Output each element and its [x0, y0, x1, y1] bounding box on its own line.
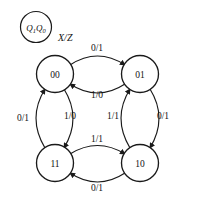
- edge-label-01-to-10: 0/1: [157, 111, 169, 121]
- state-machine-diagram: Q1Q0 X/Z 00 01 11 10: [0, 0, 208, 205]
- legend-group: Q1Q0 X/Z: [21, 12, 73, 43]
- edge-label-10-to-11: 0/1: [91, 183, 103, 193]
- state-node-10[interactable]: 10: [122, 145, 159, 182]
- edge-10-to-01[interactable]: [121, 89, 130, 148]
- edge-11-to-10[interactable]: [70, 146, 125, 155]
- edge-label-00-to-01: 0/1: [91, 43, 103, 53]
- edge-10-to-11[interactable]: [70, 173, 125, 182]
- state-label-01: 01: [135, 70, 145, 80]
- edge-11-to-00[interactable]: [36, 89, 45, 148]
- edge-label-11-to-10: 1/1: [91, 134, 103, 144]
- state-node-01[interactable]: 01: [122, 56, 159, 93]
- edge-label-10-to-01: 1/1: [107, 111, 119, 121]
- state-label-10: 10: [135, 159, 145, 169]
- legend-io-notation: X/Z: [57, 32, 73, 43]
- state-node-11[interactable]: 11: [37, 145, 74, 182]
- edge-label-01-to-00: 1/0: [91, 90, 103, 100]
- edge-label-11-to-00: 0/1: [17, 113, 29, 123]
- state-label-00: 00: [50, 70, 60, 80]
- state-diagram-canvas: Q1Q0 X/Z 00 01 11 10: [0, 0, 208, 205]
- state-node-00[interactable]: 00: [37, 56, 74, 93]
- state-label-11: 11: [50, 159, 59, 169]
- edge-label-00-to-11: 1/0: [64, 111, 76, 121]
- edge-00-to-01[interactable]: [70, 56, 125, 65]
